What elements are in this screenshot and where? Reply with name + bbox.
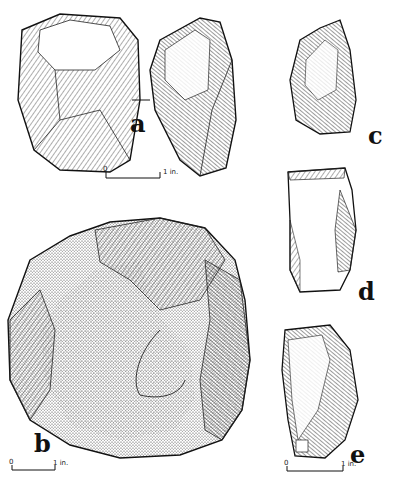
scale-b-end: 1 in. <box>53 459 68 467</box>
scale-a-start: 0 <box>103 165 107 173</box>
artifact-a-view-1 <box>18 14 140 172</box>
artifact-drawings <box>0 0 393 487</box>
scale-bar-e <box>287 466 343 471</box>
scale-e-end: 1 in. <box>341 460 356 468</box>
label-a: a <box>130 112 146 136</box>
scale-b-start: 0 <box>9 458 13 466</box>
scale-bar-a <box>106 172 160 178</box>
scale-a-end: 1 in. <box>163 168 178 176</box>
artifact-b <box>8 218 250 458</box>
scale-bar-b <box>12 465 55 470</box>
artifact-c <box>290 20 356 134</box>
label-d: d <box>358 280 375 304</box>
artifact-illustration: a b c d e 0 1 in. 0 1 in. 0 1 in. <box>0 0 393 487</box>
label-b: b <box>34 432 51 456</box>
scale-e-start: 0 <box>284 459 288 467</box>
artifact-d <box>288 168 356 292</box>
artifact-a-view-2 <box>150 18 236 176</box>
label-c: c <box>368 124 383 148</box>
artifact-e <box>282 325 358 458</box>
